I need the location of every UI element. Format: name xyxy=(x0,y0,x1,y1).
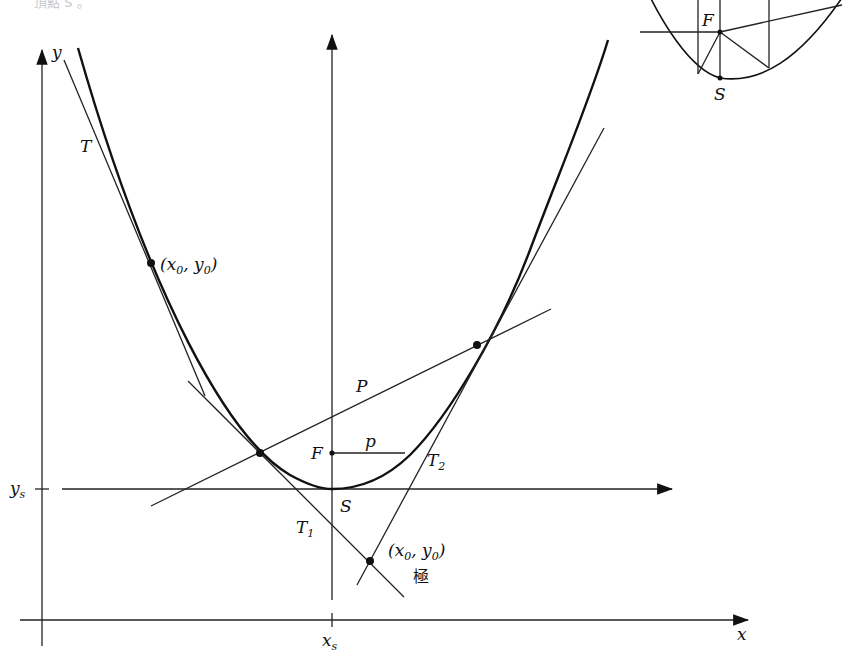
pole-point xyxy=(366,557,374,565)
tangent-T2-label: T2 xyxy=(427,450,445,473)
param-p-label: p xyxy=(365,431,376,451)
tangent-point-T2 xyxy=(473,341,481,349)
tangent-point-upper xyxy=(147,259,155,267)
pole-point-label: (x0, y0) xyxy=(388,540,445,563)
vertex-S-label: S xyxy=(340,496,352,516)
inset-diagram xyxy=(640,0,844,81)
x-axis-label: x xyxy=(737,624,747,644)
parabola-curve xyxy=(78,40,608,489)
focus-point xyxy=(329,450,334,455)
parabola-diagram: 頂點 S 。 y x xs ys T P T1 T2 F p S (x0, y0… xyxy=(0,0,844,653)
tangent-line-T2 xyxy=(357,128,604,585)
inset-vertex-label: S xyxy=(714,84,726,104)
inset-focus-label: F xyxy=(701,10,715,30)
pole-caption: 極 xyxy=(413,567,429,586)
focus-F-label: F xyxy=(310,443,324,463)
point-upper-label: (x0, y0) xyxy=(160,254,217,277)
top-text-fragment: 頂點 S 。 xyxy=(34,0,90,10)
y-axis-label: y xyxy=(51,42,62,62)
polar-P-label: P xyxy=(355,376,368,396)
ys-label: ys xyxy=(9,478,26,501)
tangent-line-T xyxy=(64,60,205,396)
xs-label: xs xyxy=(322,630,338,653)
polar-line-P xyxy=(151,309,551,506)
svg-text:頂點 S 。: 頂點 S 。 xyxy=(34,0,90,10)
tangent-point-T1 xyxy=(256,449,264,457)
tangent-T-label: T xyxy=(80,136,93,156)
tangent-T1-label: T1 xyxy=(296,517,314,540)
